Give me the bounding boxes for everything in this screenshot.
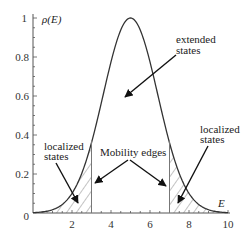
y-axis-label: ρ(E) [41,13,62,26]
density-of-states-chart: 1 0.8 0.6 0.4 0.2 0 2 4 6 8 10 ρ(E) E ex… [0,0,247,239]
localized-right-arrow [178,146,208,203]
mobility-arrow-left [95,160,128,183]
localized-left-arrow [56,163,78,203]
x-tick-2: 2 [69,218,75,230]
y-tick-0.2: 0.2 [15,168,29,180]
mobility-edges-label: Mobility edges [100,146,166,158]
localized-states-right-label-2: states [200,133,224,145]
x-axis-label: E [217,197,225,209]
origin-label: 0 [24,210,30,222]
y-tick-1: 1 [22,12,28,24]
mobility-arrow-right [130,160,166,186]
localized-states-left-label-2: states [44,150,68,162]
y-tick-0.6: 0.6 [15,90,29,102]
x-tick-6: 6 [147,218,153,230]
y-tick-0.4: 0.4 [15,129,29,141]
y-tick-0.8: 0.8 [15,51,29,63]
x-tick-10: 10 [223,218,235,230]
x-tick-4: 4 [108,218,114,230]
x-tick-8: 8 [186,218,192,230]
extended-states-label-2: states [176,44,200,56]
